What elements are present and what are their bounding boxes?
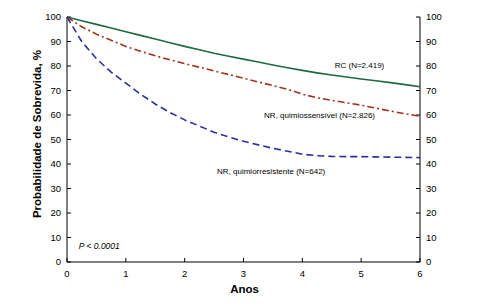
y-tick-label-right: 70	[426, 85, 448, 96]
y-tick-label-right: 50	[426, 134, 448, 145]
annotation-p-value: P < 0.0001	[79, 241, 120, 251]
y-tick-label-right: 100	[426, 11, 448, 22]
x-tick-label: 6	[412, 268, 428, 279]
y-tick-label-right: 20	[426, 207, 448, 218]
x-tick-label: 3	[236, 268, 252, 279]
series-line-2	[67, 17, 420, 158]
x-tick-label: 5	[353, 268, 369, 279]
x-tick-label: 4	[294, 268, 310, 279]
y-tick-label-right: 80	[426, 60, 448, 71]
y-tick-label-right: 10	[426, 232, 448, 243]
y-tick-label-right: 40	[426, 158, 448, 169]
x-tick-label: 2	[177, 268, 193, 279]
series-label-2: NR, quimiorresistente (N=642)	[217, 167, 325, 176]
y-tick-label: 90	[39, 36, 61, 47]
y-tick-label: 20	[39, 207, 61, 218]
plot-area	[0, 0, 489, 305]
y-tick-label: 40	[39, 158, 61, 169]
x-tick-label: 0	[59, 268, 75, 279]
y-tick-label-right: 60	[426, 109, 448, 120]
series-label-0: RC (N=2.419)	[335, 61, 385, 70]
y-tick-label: 60	[39, 109, 61, 120]
y-tick-label: 10	[39, 232, 61, 243]
y-tick-label: 70	[39, 85, 61, 96]
axis-frame	[67, 17, 420, 262]
y-tick-label-right: 30	[426, 183, 448, 194]
y-tick-label: 80	[39, 60, 61, 71]
y-tick-label: 30	[39, 183, 61, 194]
x-tick-label: 1	[118, 268, 134, 279]
series-line-0	[67, 17, 420, 87]
y-tick-label-right: 90	[426, 36, 448, 47]
survival-chart: Probabilidade de Sobrevida, % Anos 01020…	[0, 0, 489, 305]
series-label-1: NR, quimiossensível (N=2.826)	[264, 111, 375, 120]
y-tick-label-right: 0	[426, 256, 448, 267]
y-tick-label: 50	[39, 134, 61, 145]
y-tick-label: 0	[39, 256, 61, 267]
y-tick-label: 100	[39, 11, 61, 22]
